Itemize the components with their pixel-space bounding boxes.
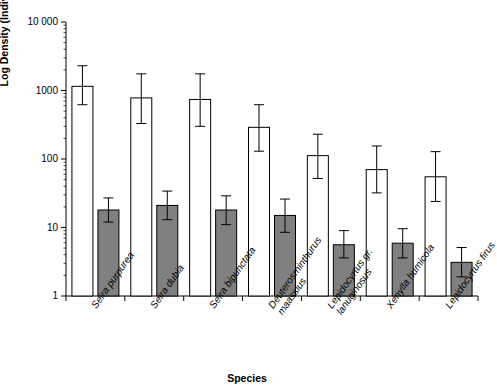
y-tick-label: 10 xyxy=(2,222,58,233)
bar xyxy=(249,127,270,296)
bar xyxy=(72,86,93,296)
y-tick-label: 10 000 xyxy=(2,16,58,27)
y-tick-label: 100 xyxy=(2,153,58,164)
bar xyxy=(131,98,152,296)
bar xyxy=(190,99,211,296)
y-tick-label: 1 xyxy=(2,290,58,301)
y-tick-label: 1000 xyxy=(2,85,58,96)
x-axis-label: Species xyxy=(0,372,494,384)
